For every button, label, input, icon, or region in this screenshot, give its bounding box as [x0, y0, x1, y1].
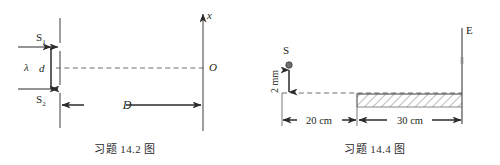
figure-14-4: S 2 mm E 20 cm 30 cm 习题 14.4 图	[250, 0, 500, 165]
figure-14-2-caption: 习题 14.2 图	[0, 140, 250, 156]
label-wavelength: λ	[23, 61, 29, 73]
mirror-slab	[357, 94, 462, 107]
point-source-marker	[286, 62, 292, 68]
figure-14-2: S1 S2 λ d D O x 习题 14.2 图	[0, 0, 250, 165]
label-axis-x: x	[206, 9, 212, 21]
label-slit-2: S2	[36, 93, 46, 108]
label-segment-20cm: 20 cm	[306, 115, 332, 126]
figure-14-4-drawing: S 2 mm E 20 cm 30 cm	[250, 0, 500, 140]
label-slit-to-screen: D	[122, 98, 132, 112]
figure-sheet: S1 S2 λ d D O x 习题 14.2 图	[0, 0, 500, 165]
slit-to-screen-dimension	[62, 97, 201, 113]
label-screen-E: E	[466, 24, 473, 36]
label-slit-separation: d	[39, 62, 45, 74]
figure-14-4-caption: 习题 14.4 图	[250, 140, 500, 156]
label-slit-1: S1	[36, 31, 46, 46]
label-source-height: 2 mm	[269, 70, 280, 93]
label-origin: O	[209, 61, 217, 73]
figure-14-2-drawing: S1 S2 λ d D O x	[0, 0, 250, 140]
label-source-S: S	[283, 44, 289, 56]
label-segment-30cm: 30 cm	[397, 115, 423, 126]
